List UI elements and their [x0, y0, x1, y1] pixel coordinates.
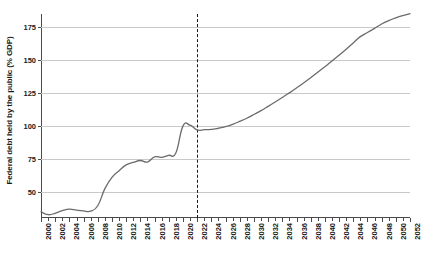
x-tick-2010	[112, 218, 113, 222]
x-tick-2041	[332, 218, 333, 221]
x-tick-2016	[155, 218, 156, 222]
x-tick-2013	[133, 218, 134, 221]
x-tick-label-2032: 2032	[271, 223, 280, 240]
x-tick-label-2010: 2010	[115, 223, 124, 240]
x-tick-label-2006: 2006	[87, 223, 96, 240]
debt-line-path	[41, 14, 410, 215]
x-tick-2024	[211, 218, 212, 222]
x-tick-2029	[247, 218, 248, 221]
x-tick-2044	[353, 218, 354, 222]
x-tick-label-2014: 2014	[143, 223, 152, 240]
x-tick-label-2034: 2034	[285, 223, 294, 240]
y-axis-title-text: Federal debt held by the public (% GDP)	[5, 36, 14, 184]
x-tick-label-2024: 2024	[214, 223, 223, 240]
x-tick-2026	[226, 218, 227, 222]
x-tick-2033	[275, 218, 276, 221]
x-tick-2001	[48, 218, 49, 221]
x-tick-2014	[140, 218, 141, 222]
x-tick-2042	[339, 218, 340, 222]
x-tick-2047	[375, 218, 376, 221]
data-series-svg	[41, 14, 410, 218]
x-axis-tick-labels: 2000200220042006200820102012201420162018…	[41, 223, 410, 263]
plot-area	[41, 14, 410, 218]
x-tick-2030	[254, 218, 255, 222]
x-tick-2046	[367, 218, 368, 222]
x-tick-2005	[77, 218, 78, 221]
x-tick-2040	[325, 218, 326, 222]
y-tick-label-125: 125	[23, 89, 36, 98]
x-tick-2035	[289, 218, 290, 221]
x-tick-2025	[218, 218, 219, 221]
y-tick-label-150: 150	[23, 56, 36, 65]
x-tick-2032	[268, 218, 269, 222]
x-tick-label-2016: 2016	[158, 223, 167, 240]
y-tick-label-175: 175	[23, 23, 36, 32]
x-tick-2037	[304, 218, 305, 221]
x-tick-label-2018: 2018	[172, 223, 181, 240]
x-tick-2015	[147, 218, 148, 221]
x-tick-2021	[190, 218, 191, 221]
x-tick-2045	[360, 218, 361, 221]
x-tick-label-2028: 2028	[243, 223, 252, 240]
x-tick-label-2012: 2012	[129, 223, 138, 240]
x-tick-2022	[197, 218, 198, 222]
x-tick-label-2000: 2000	[44, 223, 53, 240]
x-tick-2002	[55, 218, 56, 222]
x-tick-2050	[396, 218, 397, 222]
x-tick-label-2040: 2040	[328, 223, 337, 240]
x-tick-2020	[183, 218, 184, 222]
x-tick-label-2036: 2036	[300, 223, 309, 240]
x-tick-label-2038: 2038	[314, 223, 323, 240]
x-tick-2018	[169, 218, 170, 222]
x-tick-2027	[233, 218, 234, 221]
x-tick-2034	[282, 218, 283, 222]
x-tick-label-2022: 2022	[200, 223, 209, 240]
x-tick-2028	[240, 218, 241, 222]
x-tick-2043	[346, 218, 347, 221]
x-tick-2003	[62, 218, 63, 221]
x-tick-label-2044: 2044	[356, 223, 365, 240]
x-tick-2008	[98, 218, 99, 222]
x-tick-label-2004: 2004	[72, 223, 81, 240]
x-tick-2048	[382, 218, 383, 222]
y-axis-title: Federal debt held by the public (% GDP)	[0, 0, 18, 220]
y-axis-tick-labels: 5075100125150175	[18, 14, 38, 218]
x-tick-label-2050: 2050	[399, 223, 408, 240]
x-tick-2000	[41, 218, 42, 222]
x-tick-2006	[84, 218, 85, 222]
y-tick-label-75: 75	[28, 154, 36, 163]
x-tick-label-2048: 2048	[385, 223, 394, 240]
y-tick-label-100: 100	[23, 121, 36, 130]
x-tick-2017	[162, 218, 163, 221]
x-tick-label-2052: 2052	[413, 223, 422, 240]
x-tick-2036	[297, 218, 298, 222]
x-tick-2011	[119, 218, 120, 221]
x-tick-2007	[91, 218, 92, 221]
x-tick-2019	[176, 218, 177, 221]
x-tick-label-2008: 2008	[101, 223, 110, 240]
x-tick-2039	[318, 218, 319, 221]
x-tick-label-2026: 2026	[229, 223, 238, 240]
x-tick-2009	[105, 218, 106, 221]
x-tick-label-2046: 2046	[370, 223, 379, 240]
x-tick-2051	[403, 218, 404, 221]
x-tick-2004	[69, 218, 70, 222]
y-tick-label-50: 50	[28, 187, 36, 196]
x-tick-2012	[126, 218, 127, 222]
x-tick-label-2002: 2002	[58, 223, 67, 240]
x-tick-2023	[204, 218, 205, 221]
x-tick-label-2030: 2030	[257, 223, 266, 240]
x-tick-label-2020: 2020	[186, 223, 195, 240]
x-tick-2031	[261, 218, 262, 221]
x-tick-2049	[389, 218, 390, 221]
x-tick-2052	[410, 218, 411, 222]
x-tick-label-2042: 2042	[342, 223, 351, 240]
x-tick-2038	[311, 218, 312, 222]
